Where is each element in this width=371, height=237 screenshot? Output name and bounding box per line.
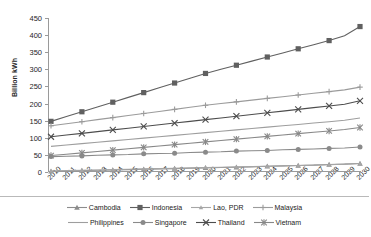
legend-row-2: PhilippinesSingaporeThailandVietnam [0,215,369,230]
data-point-marker-circle [140,220,145,225]
x-axis-tick-mark [313,172,314,175]
data-point-marker-circle [234,149,239,154]
data-point-marker-plus [326,89,332,95]
series-lines [49,18,362,172]
data-point-marker-square [327,38,332,43]
legend-item-singapore[interactable]: Singapore [133,218,187,227]
y-axis-tick-label: 450 [16,14,42,23]
legend-item-vietnam[interactable]: Vietnam [254,218,302,227]
y-axis-tick-label: 300 [16,65,42,74]
legend-item-indonesia[interactable]: Indonesia [130,203,182,212]
data-point-marker-square [110,100,115,105]
data-point-marker-plus [357,84,363,90]
y-axis-tick-label: 350 [16,48,42,57]
legend-label: Lao, PDR [213,203,243,212]
data-point-marker-plus [260,205,266,211]
data-point-marker-plus [295,92,301,98]
chart-legend: CambodiaIndonesiaLao, PDRMalaysia Philip… [0,196,369,230]
x-axis-tick-mark [282,172,283,175]
legend-item-malaysia[interactable]: Malaysia [253,203,303,212]
legend-item-cambodia[interactable]: Cambodia [67,203,121,212]
x-axis-tick-mark [328,172,329,175]
data-point-marker-plus [203,102,209,108]
legend-item-thailand[interactable]: Thailand [196,218,245,227]
y-axis-tick-label: 200 [16,100,42,109]
y-axis-tick-label: 50 [16,151,42,160]
legend-label: Philippines [90,218,124,227]
legend-swatch-triangle-icon [67,203,87,212]
data-point-marker-plus [79,119,85,125]
y-axis-tick-label: 400 [16,31,42,40]
data-point-marker-circle [172,151,177,156]
x-axis-tick-mark [235,172,236,175]
data-point-marker-circle [358,145,363,150]
x-axis-tick-mark [205,172,206,175]
data-point-marker-circle [296,147,301,152]
data-point-marker-square [357,24,362,29]
x-axis-tick-mark [251,172,252,175]
data-point-marker-plus [234,99,240,105]
legend-label: Thailand [218,218,245,227]
x-axis-tick-mark [220,172,221,175]
data-point-marker-square [203,71,208,76]
data-point-marker-square [141,90,146,95]
data-point-marker-square [265,54,270,59]
data-point-marker-circle [203,150,208,155]
data-point-marker-plus [110,115,116,121]
data-point-marker-square [137,205,142,210]
data-point-marker-plus [141,111,147,117]
legend-label: Vietnam [276,218,302,227]
data-point-marker-plus [172,107,178,113]
legend-item-philippines[interactable]: Philippines [68,218,124,227]
legend-swatch-none-icon [68,218,88,227]
y-axis-tick-label: 150 [16,117,42,126]
x-axis-tick-mark [158,172,159,175]
x-axis-tick-mark [112,172,113,175]
y-axis-tick-label: 0 [16,168,42,177]
plot-area [48,18,361,172]
legend-label: Cambodia [89,203,121,212]
legend-swatch-plus-icon [253,203,273,212]
data-point-marker-square [234,63,239,68]
legend-swatch-asterisk-icon [254,218,274,227]
x-axis-tick-mark [143,172,144,175]
x-axis-tick-mark [297,172,298,175]
x-axis-tick-mark [266,172,267,175]
legend-swatch-cross-icon [196,218,216,227]
legend-label: Malaysia [275,203,303,212]
legend-swatch-circle-icon [133,218,153,227]
legend-label: Singapore [155,218,187,227]
legend-label: Indonesia [152,203,182,212]
data-point-marker-circle [265,148,270,153]
data-point-marker-square [79,109,84,114]
y-axis-tick-label: 100 [16,134,42,143]
legend-swatch-square-icon [130,203,150,212]
x-axis-tick-mark [189,172,190,175]
legend-swatch-triangle-small-icon [191,203,211,212]
x-axis-tick-mark [65,172,66,175]
data-point-marker-square [172,80,177,85]
data-point-marker-plus [265,96,271,102]
x-axis-tick-mark [359,172,360,175]
legend-item-lao-pdr[interactable]: Lao, PDR [191,203,243,212]
x-axis-tick-mark [96,172,97,175]
data-point-marker-circle [141,151,146,156]
x-axis-tick-mark [344,172,345,175]
y-axis-tick-label: 250 [16,82,42,91]
x-axis-tick-mark [127,172,128,175]
y-axis-title: Billion kWh [11,42,18,114]
x-axis-tick-mark [174,172,175,175]
data-point-marker-square [296,46,301,51]
legend-row-1: CambodiaIndonesiaLao, PDRMalaysia [0,200,369,215]
data-point-marker-circle [327,146,332,151]
